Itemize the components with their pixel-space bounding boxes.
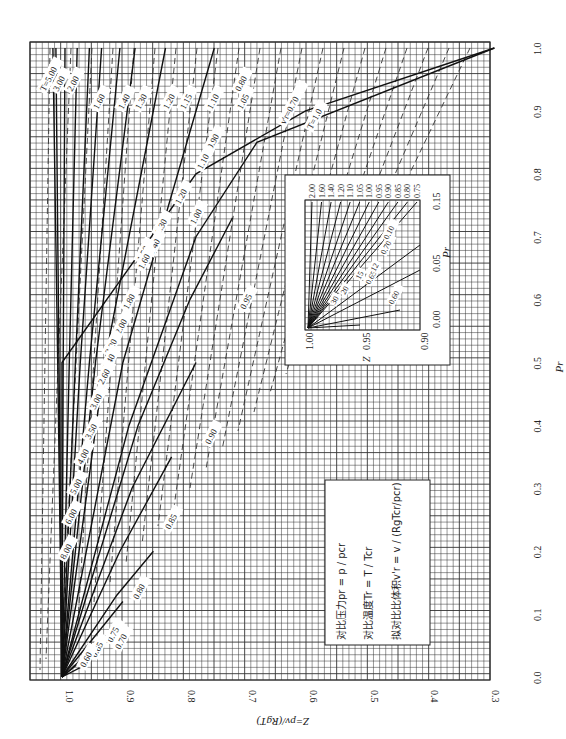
svg-text:0.8: 0.8 [532,168,543,181]
svg-text:0.2: 0.2 [532,546,543,559]
svg-text:1.20: 1.20 [337,184,346,198]
svg-text:1.40: 1.40 [327,184,336,198]
inset-ytick-3: 0.90 [419,333,430,351]
svg-text:0.9: 0.9 [125,690,136,703]
svg-text:0.9: 0.9 [532,105,543,118]
inset-ytick-1: 1.00 [304,333,315,351]
inset-y-label: Z [361,356,372,362]
svg-text:0.0: 0.0 [532,672,543,685]
svg-text:1.05: 1.05 [356,184,365,198]
inset-chart: 2.001.601.401.201.101.051.000.950.900.85… [285,175,452,365]
legend-line-2: 对比温度Tr = T / Tcr [362,546,374,640]
svg-text:0.80: 0.80 [403,184,412,198]
svg-text:1.60: 1.60 [318,184,327,198]
svg-text:0.5: 0.5 [532,357,543,370]
inset-ytick-2: 0.95 [361,333,372,351]
svg-text:1.10: 1.10 [346,184,355,198]
svg-text:0.3: 0.3 [532,483,543,496]
svg-text:1.0: 1.0 [64,690,75,703]
svg-text:0.6: 0.6 [532,294,543,307]
svg-text:0.4: 0.4 [429,690,440,703]
z-axis-label: Z=pv/(RgT) [256,715,309,728]
svg-text:2.00: 2.00 [308,184,317,198]
svg-text:0.5: 0.5 [369,690,380,703]
svg-text:0.1: 0.1 [532,609,543,622]
z-axis-ticks: 1.00.90.80.70.60.50.40.3 [64,690,501,703]
svg-text:1.0: 1.0 [532,43,543,56]
svg-text:0.90: 0.90 [384,184,393,198]
pr-axis-ticks: 0.00.10.20.30.40.50.60.70.80.91.0 [532,43,543,685]
svg-text:0.4: 0.4 [532,420,543,433]
pr-axis-label: Pr [553,361,565,374]
svg-text:0.95: 0.95 [375,184,384,198]
svg-text:0.85: 0.85 [394,184,403,198]
inset-xtick-1: 0.00 [431,311,442,329]
inset-x-label: Pr [440,246,452,259]
legend-line-3: 拟对比比体积v'r = v / (RgTcr/pcr) [390,482,402,640]
svg-text:0.6: 0.6 [308,690,319,703]
legend-line-1: 对比压力pr = p / pcr [335,542,347,640]
svg-text:1.00: 1.00 [365,184,374,198]
svg-text:0.7: 0.7 [247,690,258,703]
inset-xtick-3: 0.15 [431,193,442,211]
definitions-box: 对比压力pr = p / pcr 对比温度Tr = T / Tcr 拟对比比体积… [325,480,430,645]
svg-text:0.3: 0.3 [490,690,501,703]
svg-text:0.8: 0.8 [186,690,197,703]
compressibility-chart: T=5.003.002.001.601.401.301.201.151.101.… [0,0,566,739]
svg-text:0.7: 0.7 [532,231,543,244]
svg-text:0.75: 0.75 [413,184,422,198]
